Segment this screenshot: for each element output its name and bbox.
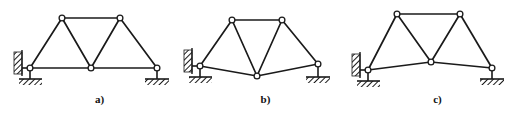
member-bottom-chord-right bbox=[431, 62, 492, 68]
ground-hatch-block bbox=[189, 77, 212, 83]
truss-diagram-b: b) bbox=[170, 0, 341, 118]
truss-diagram-a: a) bbox=[0, 0, 171, 118]
node-top-right bbox=[279, 17, 285, 23]
node-left-support bbox=[27, 65, 33, 71]
ground-hatch-block bbox=[357, 81, 380, 87]
wall-hatch-block bbox=[184, 50, 192, 72]
node-bottom-center bbox=[428, 59, 434, 65]
truss-svg-c bbox=[340, 0, 511, 96]
member-bottom-chord-left bbox=[368, 62, 431, 70]
member-right-diagonal bbox=[91, 18, 120, 68]
member-bottom-chord-left bbox=[200, 66, 257, 76]
node-right-support bbox=[489, 65, 495, 71]
node-bottom-center bbox=[254, 73, 260, 79]
member-left-rafter bbox=[368, 14, 397, 70]
panel-label-a: a) bbox=[0, 93, 185, 105]
member-right-rafter bbox=[460, 14, 492, 68]
panel-label-c: c) bbox=[340, 93, 512, 105]
panel-label-b: b) bbox=[170, 93, 351, 105]
member-right-diagonal bbox=[257, 20, 282, 76]
ground-hatch-block bbox=[480, 79, 504, 85]
member-right-diagonal bbox=[431, 14, 460, 62]
ground-hatch-block bbox=[145, 79, 169, 85]
truss-svg-a bbox=[0, 0, 171, 96]
member-left-diagonal bbox=[62, 18, 91, 68]
member-left-rafter bbox=[200, 20, 232, 66]
node-left-support bbox=[197, 63, 203, 69]
truss-members-a bbox=[30, 18, 157, 68]
ground-hatch-block bbox=[306, 77, 330, 83]
node-top-right bbox=[117, 15, 123, 21]
member-left-rafter bbox=[30, 18, 62, 68]
member-right-rafter bbox=[120, 18, 157, 68]
truss-diagram-c: c) bbox=[340, 0, 511, 118]
member-left-diagonal bbox=[397, 14, 431, 62]
node-right-support bbox=[315, 61, 321, 67]
truss-members-b bbox=[200, 20, 318, 76]
truss-figure-sheet: a) bbox=[0, 0, 512, 118]
wall-hatch-block bbox=[14, 52, 22, 74]
node-right-support bbox=[154, 65, 160, 71]
node-top-left bbox=[229, 17, 235, 23]
wall-hatch-block bbox=[352, 54, 360, 76]
truss-svg-b bbox=[170, 0, 341, 96]
member-left-diagonal bbox=[232, 20, 257, 76]
member-bottom-chord-right bbox=[257, 64, 318, 76]
node-bottom-center bbox=[88, 65, 94, 71]
node-top-right bbox=[457, 11, 463, 17]
node-left-support bbox=[365, 67, 371, 73]
node-top-left bbox=[394, 11, 400, 17]
ground-hatch-block bbox=[19, 79, 42, 85]
node-top-left bbox=[59, 15, 65, 21]
truss-nodes-c bbox=[365, 11, 495, 73]
member-right-rafter bbox=[282, 20, 318, 64]
